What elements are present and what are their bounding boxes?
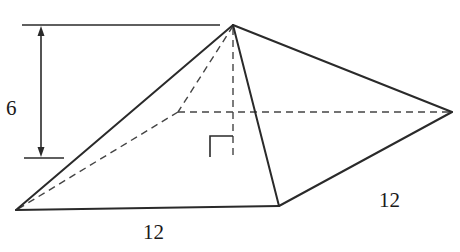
right-angle-icon	[210, 136, 233, 157]
edge-apex-right	[233, 25, 452, 112]
hidden-edge-apex-back-left	[178, 26, 233, 112]
pyramid-diagram: 6 12 12	[0, 0, 460, 252]
arrow-down-icon	[38, 147, 45, 157]
hidden-edge-back-left-front-left	[18, 112, 178, 209]
pyramid-drawing	[0, 0, 460, 252]
base-edge-front	[16, 206, 279, 210]
height-label: 6	[6, 98, 17, 119]
base-edge-right	[279, 112, 452, 206]
base-right-edge-label: 12	[379, 190, 400, 211]
edge-apex-front-left	[16, 25, 233, 210]
arrow-up-icon	[38, 26, 45, 36]
edge-apex-front-right	[233, 25, 279, 206]
base-front-edge-label: 12	[143, 222, 164, 243]
